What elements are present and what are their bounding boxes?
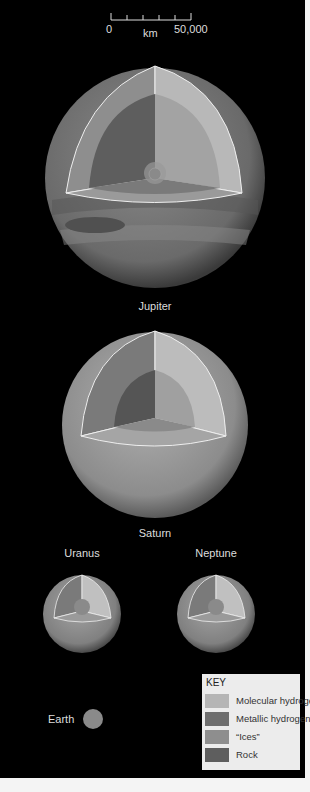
legend-item-molecular-hydrogen: Molecular hydrogen — [205, 694, 300, 710]
jupiter-cutaway — [45, 66, 265, 288]
legend-swatch — [205, 748, 229, 762]
neptune-cutaway — [177, 575, 255, 653]
legend-title: KEY — [206, 677, 226, 688]
planet-label-uranus: Uranus — [52, 547, 112, 559]
earth-sphere — [83, 709, 103, 729]
scale-start-label: 0 — [106, 23, 112, 35]
legend-swatch — [205, 712, 229, 726]
planet-label-saturn: Saturn — [125, 527, 185, 539]
uranus-cutaway — [43, 575, 121, 653]
legend-label: Molecular hydrogen — [236, 695, 310, 706]
scale-end-label: 50,000 — [174, 23, 208, 35]
planet-label-jupiter: Jupiter — [125, 300, 185, 312]
legend-label: Metallic hydrogen — [236, 713, 310, 724]
legend-item-ices: “Ices” — [205, 730, 300, 746]
legend-item-metallic-hydrogen: Metallic hydrogen — [205, 712, 300, 728]
legend-swatch — [205, 694, 229, 708]
scale-bar — [111, 13, 191, 20]
saturn-cutaway — [62, 331, 248, 518]
legend-key: KEY Molecular hydrogen Metallic hydrogen… — [202, 674, 300, 770]
legend-item-rock: Rock — [205, 748, 300, 764]
legend-label: “Ices” — [236, 731, 260, 742]
legend-label: Rock — [236, 749, 258, 760]
scale-unit-label: km — [143, 27, 158, 39]
planet-label-neptune: Neptune — [186, 547, 246, 559]
planet-label-earth: Earth — [48, 713, 74, 725]
legend-swatch — [205, 730, 229, 744]
